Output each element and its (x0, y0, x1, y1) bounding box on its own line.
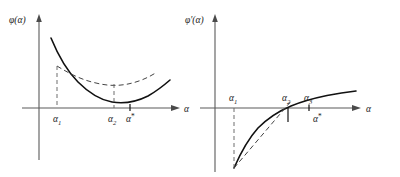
left-tick-alpha2: α2 (108, 114, 117, 126)
right-x-axis-label: α (366, 104, 372, 114)
left-tick-alpha-star: α* (126, 112, 135, 124)
left-y-axis-label: φ(α) (9, 15, 26, 26)
left-panel: φ(α) α α1 α2 α* (9, 14, 190, 160)
left-y-axis-arrowhead (36, 14, 42, 22)
right-tick-alpha-star: α* (313, 112, 322, 124)
phi-prime-curve (234, 91, 356, 168)
right-x-axis-arrowhead (352, 105, 361, 111)
left-tick-alpha1: α1 (53, 114, 61, 126)
right-y-axis-arrowhead (212, 14, 218, 22)
right-panel: φ′(α) α α1 α2 α3 α* (185, 14, 372, 172)
right-tick-alpha1: α1 (229, 93, 237, 105)
figure-container: φ(α) α α1 α2 α* φ′(α) α α1 α2 α3 (0, 0, 400, 177)
right-secant-dashed-line (234, 100, 292, 168)
right-tick-alpha2: α2 (282, 93, 291, 105)
left-x-axis-arrowhead (171, 105, 180, 111)
right-y-axis-label: φ′(α) (185, 15, 204, 26)
left-x-axis-label: α (184, 104, 190, 114)
two-panel-diagram: φ(α) α α1 α2 α* φ′(α) α α1 α2 α3 (0, 0, 400, 177)
right-tick-alpha3: α3 (304, 93, 313, 105)
phi-curve (51, 38, 170, 103)
